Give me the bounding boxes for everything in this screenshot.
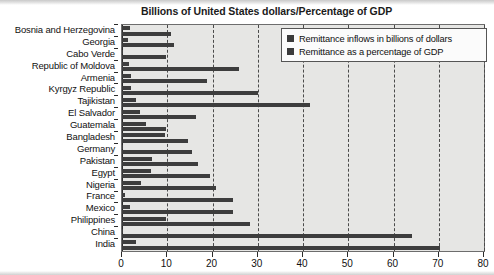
y-axis-label: Armenia [81,72,115,83]
x-axis-tick [438,252,439,257]
x-axis-label: 60 [387,258,398,269]
bar-inflows [122,193,125,197]
x-axis-label: 0 [118,258,124,269]
x-axis-tick [257,252,258,257]
bar-inflows [122,110,140,114]
y-axis-tick [114,72,118,73]
bar-row [122,108,484,120]
legend-swatch-icon [287,35,294,42]
y-axis-label: Egypt [91,167,115,178]
y-axis-tick [114,155,118,156]
bar-gdp-percent [122,127,166,131]
y-axis-label: El Salvador [68,107,115,118]
y-axis-tick [114,226,118,227]
y-axis-label: Mexico [86,202,115,213]
y-axis-label: China [91,226,115,237]
bar-inflows [122,50,123,54]
bar-row [122,144,484,156]
y-axis-label: Pakistan [80,155,115,166]
y-axis-label: Cabo Verde [66,48,115,59]
y-axis-tick [114,167,118,168]
y-axis-tick [114,36,118,37]
y-axis-tick [114,202,118,203]
bar-inflows [122,229,123,233]
y-axis-tick [114,24,118,25]
y-axis-label: Guatemala [70,119,115,130]
bar-inflows [122,38,128,42]
bar-row [122,96,484,108]
bar-inflows [122,217,166,221]
y-axis-tick [114,60,118,61]
bar-gdp-percent [122,210,233,214]
y-axis-label: Tajikistan [77,95,115,106]
bar-inflows [122,86,131,90]
bar-inflows [122,240,136,244]
bar-inflows [122,157,152,161]
y-axis-tick [114,238,118,239]
bar-inflows [122,169,151,173]
bar-gdp-percent [122,79,207,83]
bar-gdp-percent [122,115,196,119]
bar-gdp-percent [122,55,166,59]
bar-inflows [122,122,146,126]
bar-gdp-percent [122,222,250,226]
x-axis-tick [212,252,213,257]
y-axis-tick [114,48,118,49]
chart-legend: Remittance inflows in billions of dollar… [281,28,487,62]
y-axis-label: India [95,238,115,249]
y-axis-label: Bangladesh [66,131,115,142]
bar-row [122,215,484,227]
bar-inflows [122,145,123,149]
bar-gdp-percent [122,91,258,95]
bar-row [122,239,484,251]
bar-gdp-percent [122,150,192,154]
y-axis-tick [114,107,118,108]
x-axis-label: 30 [251,258,262,269]
bar-row [122,203,484,215]
bar-gdp-percent [122,32,171,36]
y-axis-label: Bosnia and Herzegovina [15,24,115,35]
y-axis-tick [114,191,118,192]
bar-row [122,192,484,204]
x-axis-tick [393,252,394,257]
y-axis-labels: Bosnia and HerzegovinaGeorgiaCabo VerdeR… [0,24,118,252]
y-axis-tick [114,131,118,132]
bar-inflows [122,133,165,137]
bar-gdp-percent [122,67,239,71]
bar-gdp-percent [122,139,188,143]
y-axis-label: Philippines [71,214,115,225]
y-axis-label: Kyrgyz Republic [49,83,115,94]
bar-row [122,84,484,96]
bar-gdp-percent [122,103,310,107]
bar-gdp-percent [122,162,198,166]
y-axis-label: Republic of Moldova [32,60,115,71]
x-axis-label: 20 [206,258,217,269]
x-axis-label: 40 [296,258,307,269]
x-axis-tick [302,252,303,257]
bar-gdp-percent [122,198,233,202]
bar-gdp-percent [122,186,216,190]
bar-inflows [122,181,141,185]
legend-item: Remittance as a percentage of GDP [287,45,481,58]
legend-item-label: Remittance as a percentage of GDP [299,47,443,57]
y-axis-tick [114,83,118,84]
x-axis-label: 50 [342,258,353,269]
bar-inflows [122,62,129,66]
page-edge-bottom [0,271,494,275]
bar-inflows [122,205,130,209]
y-axis-label: Germany [77,143,115,154]
bar-gdp-percent [122,234,412,238]
bar-inflows [122,74,131,78]
y-axis-tick [114,95,118,96]
x-axis-label: 70 [432,258,443,269]
y-axis-tick [114,119,118,120]
bar-row [122,120,484,132]
bar-inflows [122,98,136,102]
bar-row [122,156,484,168]
y-axis-tick [114,143,118,144]
bar-row [122,61,484,73]
bar-row [122,180,484,192]
bar-inflows [122,26,130,30]
bar-gdp-percent [122,246,440,250]
bar-row [122,73,484,85]
